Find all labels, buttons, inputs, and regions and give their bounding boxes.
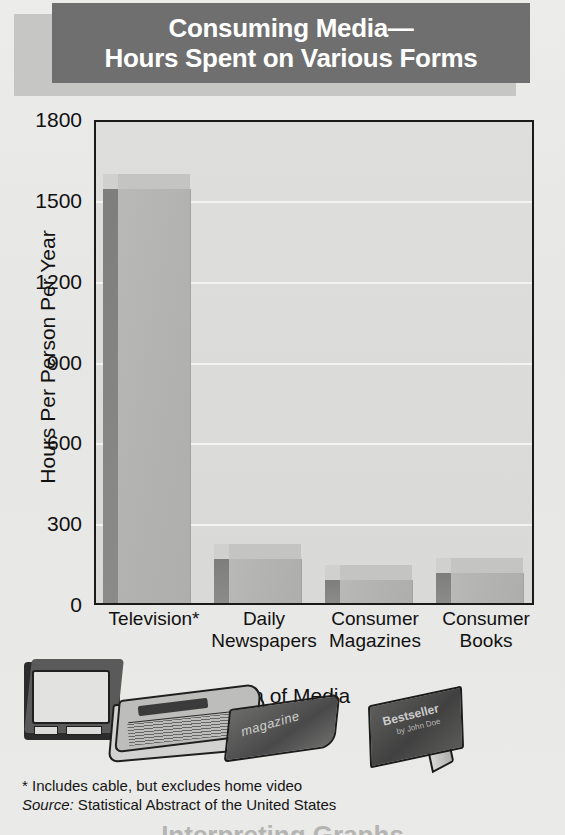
- x-label-television-line1: Television*: [94, 608, 214, 630]
- television-button-left: [34, 726, 58, 735]
- footnote-source: Source: Statistical Abstract of the Unit…: [22, 795, 542, 814]
- cut-off-heading: Interpreting Graphs: [0, 820, 565, 835]
- bar-television-front: [118, 189, 191, 603]
- cut-off-heading-text: Interpreting Graphs: [0, 820, 565, 835]
- bar-consumer-books-side: [436, 573, 451, 603]
- bar-consumer-books-front: [451, 573, 524, 603]
- x-label-consumer-books-line1: Consumer: [426, 608, 546, 630]
- y-axis-tick-labels: 1800 1500 1200 900 600 300 0: [0, 120, 88, 605]
- y-tick-1200: 1200: [35, 270, 82, 294]
- magazine-icon: magazine: [226, 702, 344, 762]
- bar-consumer-books-bevel: [436, 558, 451, 573]
- bar-television-side: [103, 189, 118, 603]
- television-button-right: [66, 726, 102, 735]
- y-tick-0: 0: [70, 593, 82, 617]
- bar-daily-newspapers-front: [229, 559, 302, 603]
- title-line-1: Consuming Media—: [168, 13, 413, 43]
- bar-consumer-magazines-bevel: [325, 565, 340, 580]
- television-screen: [32, 670, 110, 724]
- bar-daily-newspapers-side: [214, 559, 229, 603]
- footnote-asterisk: * Includes cable, but excludes home vide…: [22, 776, 542, 795]
- x-label-daily-newspapers-line1: Daily: [204, 608, 324, 630]
- y-tick-600: 600: [47, 431, 82, 455]
- title-line-2: Hours Spent on Various Forms: [105, 43, 478, 73]
- y-tick-300: 300: [47, 512, 82, 536]
- bar-chart: Hours Per Person Per Year 1800 1500 1200…: [0, 100, 565, 660]
- book-icon: Bestseller by John Doe: [368, 696, 480, 766]
- bar-television[interactable]: [118, 189, 190, 603]
- y-tick-1800: 1800: [35, 108, 82, 132]
- bar-series: [96, 122, 532, 603]
- bar-daily-newspapers-bevel: [214, 544, 229, 559]
- x-label-consumer-magazines-line1: Consumer: [315, 608, 435, 630]
- footnotes: * Includes cable, but excludes home vide…: [22, 776, 542, 814]
- bar-consumer-magazines-front: [340, 580, 413, 603]
- y-tick-900: 900: [47, 351, 82, 375]
- bar-consumer-magazines[interactable]: [340, 580, 412, 603]
- footnote-source-value: Statistical Abstract of the United State…: [74, 796, 337, 813]
- illustration-group: magazine Bestseller by John Doe: [0, 640, 565, 770]
- title-banner: Consuming Media— Hours Spent on Various …: [0, 0, 565, 100]
- x-label-television: Television*: [94, 608, 214, 630]
- bar-consumer-books[interactable]: [451, 573, 523, 603]
- footnote-source-label: Source:: [22, 796, 74, 813]
- bar-consumer-magazines-side: [325, 580, 340, 603]
- y-tick-1500: 1500: [35, 189, 82, 213]
- banner-box: Consuming Media— Hours Spent on Various …: [52, 3, 530, 83]
- bar-daily-newspapers[interactable]: [229, 559, 301, 603]
- bar-television-bevel: [103, 174, 118, 189]
